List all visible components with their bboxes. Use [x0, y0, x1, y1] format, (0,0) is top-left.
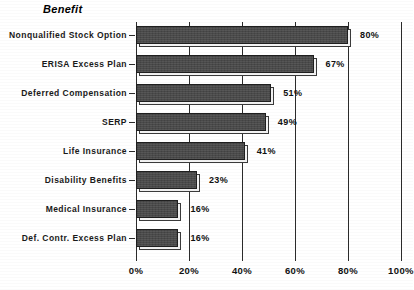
category-tickmark [129, 64, 135, 65]
bar [136, 171, 197, 192]
category-label: Def. Contr. Excess Plan [22, 233, 127, 243]
x-axis-tick-label: 60% [285, 265, 305, 276]
bar [136, 84, 271, 105]
x-axis-tick [136, 254, 137, 261]
bar-face [136, 84, 271, 102]
bar-value-label: 80% [360, 30, 379, 40]
bar [136, 142, 245, 163]
x-axis-tick [401, 254, 402, 261]
bar-face [136, 229, 178, 247]
bar [136, 26, 348, 47]
x-axis: 0%20%40%60%80%100% [136, 254, 401, 284]
bar [136, 113, 266, 134]
bar-value-label: 16% [190, 204, 209, 214]
category-label: Deferred Compensation [21, 88, 127, 98]
category-label: Medical Insurance [46, 204, 127, 214]
bar [136, 229, 178, 250]
plot-area: Nonqualified Stock Option80%ERISA Excess… [136, 22, 401, 254]
bar-value-label: 23% [209, 175, 228, 185]
bar-row: Life Insurance41% [136, 138, 401, 167]
chart-title: Benefit [43, 3, 82, 15]
bar-face [136, 113, 266, 131]
x-axis-tick-label: 80% [338, 265, 358, 276]
category-tickmark [129, 209, 135, 210]
bar-face [136, 200, 178, 218]
category-label: ERISA Excess Plan [42, 59, 127, 69]
bar-value-label: 16% [190, 233, 209, 243]
category-tickmark [129, 93, 135, 94]
bar-face [136, 171, 197, 189]
bar-face [136, 26, 348, 44]
x-axis-tick-label: 100% [388, 265, 414, 276]
category-tickmark [129, 180, 135, 181]
category-label: Disability Benefits [45, 175, 127, 185]
bar-row: Def. Contr. Excess Plan16% [136, 225, 401, 254]
category-tickmark [129, 35, 135, 36]
x-axis-tick [348, 254, 349, 261]
bar-row: Deferred Compensation51% [136, 80, 401, 109]
bar-row: Medical Insurance16% [136, 196, 401, 225]
category-tickmark [129, 151, 135, 152]
bar-row: Disability Benefits23% [136, 167, 401, 196]
category-tickmark [129, 238, 135, 239]
bar [136, 55, 314, 76]
x-axis-tick-label: 20% [179, 265, 199, 276]
x-axis-tick-label: 40% [232, 265, 252, 276]
category-label: SERP [102, 117, 127, 127]
bar-row: ERISA Excess Plan67% [136, 51, 401, 80]
x-axis-tick-label: 0% [129, 265, 144, 276]
bar-row: Nonqualified Stock Option80% [136, 22, 401, 51]
bar-value-label: 67% [326, 59, 345, 69]
category-label: Nonqualified Stock Option [9, 30, 127, 40]
x-axis-tick [295, 254, 296, 261]
x-axis-tick [189, 254, 190, 261]
bar-value-label: 49% [278, 117, 297, 127]
x-axis-tick [242, 254, 243, 261]
bar [136, 200, 178, 221]
bar-value-label: 41% [257, 146, 276, 156]
gridline-100% [401, 22, 402, 254]
bar-row: SERP49% [136, 109, 401, 138]
bar-value-label: 51% [283, 88, 302, 98]
category-tickmark [129, 122, 135, 123]
category-label: Life Insurance [63, 146, 127, 156]
bar-face [136, 55, 314, 73]
bar-face [136, 142, 245, 160]
